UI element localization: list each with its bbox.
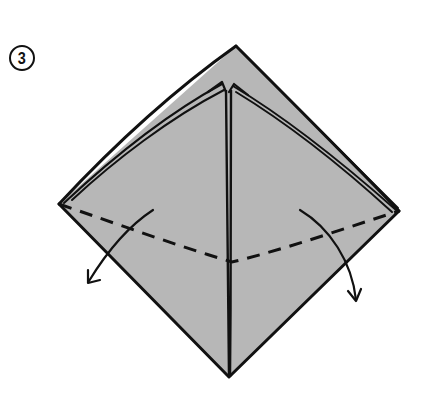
origami-diagram bbox=[0, 0, 443, 399]
